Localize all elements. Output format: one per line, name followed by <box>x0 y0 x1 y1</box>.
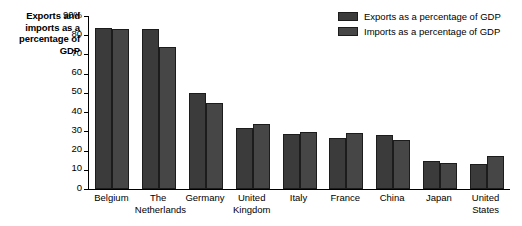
x-axis-label: The Netherlands <box>135 192 182 215</box>
bar-imports <box>393 140 410 189</box>
bar-imports <box>487 156 504 189</box>
bar-exports <box>236 128 253 190</box>
chart-legend: Exports as a percentage of GDPImports as… <box>338 10 522 40</box>
bar-exports <box>189 93 206 189</box>
y-tick-mark <box>84 35 88 36</box>
bar-exports <box>376 135 393 189</box>
bar-imports <box>112 29 129 189</box>
bar-group <box>283 16 317 189</box>
x-axis-label: Japan <box>415 192 462 204</box>
bar-exports <box>142 29 159 189</box>
x-axis-line <box>88 189 510 190</box>
y-tick-mark <box>84 170 88 171</box>
legend-swatch-exports <box>338 12 358 21</box>
bar-exports <box>470 164 487 189</box>
bar-exports <box>95 28 112 189</box>
x-axis-labels: BelgiumThe NetherlandsGermanyUnited King… <box>88 192 510 224</box>
y-tick-mark <box>84 112 88 113</box>
x-axis-label: Italy <box>275 192 322 204</box>
y-tick-label: 50 <box>71 86 82 96</box>
x-axis-label: China <box>369 192 416 204</box>
y-tick-label: 80 <box>71 29 82 39</box>
bar-imports <box>300 132 317 189</box>
legend-label: Exports as a percentage of GDP <box>364 11 501 22</box>
x-axis-label: United States <box>462 192 509 215</box>
bar-imports <box>159 47 176 189</box>
y-tick-mark <box>84 54 88 55</box>
y-tick-mark <box>84 74 88 75</box>
bar-imports <box>206 103 223 190</box>
bar-group <box>189 16 223 189</box>
bar-group <box>329 16 363 189</box>
legend-swatch-imports <box>338 27 358 36</box>
bar-exports <box>423 161 440 189</box>
x-axis-label: France <box>322 192 369 204</box>
bar-group <box>376 16 410 189</box>
bar-group <box>236 16 270 189</box>
y-tick-mark <box>84 151 88 152</box>
y-tick-label: 10 <box>71 163 82 173</box>
bar-group <box>470 16 504 189</box>
bar-group <box>423 16 457 189</box>
bar-group <box>95 16 129 189</box>
x-axis-label: United Kingdom <box>228 192 275 215</box>
bar-exports <box>283 134 300 189</box>
bar-imports <box>346 133 363 189</box>
legend-label: Imports as a percentage of GDP <box>364 26 500 37</box>
exports-imports-gdp-bar-chart: Exports and imports as a percentage of G… <box>0 0 522 226</box>
y-tick-mark <box>84 189 88 190</box>
x-axis-label: Belgium <box>88 192 135 204</box>
y-tick-mark <box>84 131 88 132</box>
bar-group <box>142 16 176 189</box>
bar-imports <box>253 124 270 189</box>
legend-item-exports: Exports as a percentage of GDP <box>338 10 522 23</box>
y-tick-label: 70 <box>71 48 82 58</box>
bars-layer <box>89 16 510 189</box>
legend-item-imports: Imports as a percentage of GDP <box>338 25 522 38</box>
y-tick-label: 0 <box>77 183 82 193</box>
plot-area: 0102030405060708090% <box>88 16 510 190</box>
y-tick-label: 40 <box>71 106 82 116</box>
y-tick-mark <box>84 16 88 17</box>
bar-imports <box>440 163 457 189</box>
y-tick-label: 20 <box>71 144 82 154</box>
y-tick-label: 60 <box>71 67 82 77</box>
bar-exports <box>329 138 346 189</box>
x-axis-label: Germany <box>182 192 229 204</box>
y-tick-label: 90% <box>63 10 82 20</box>
y-tick-mark <box>84 93 88 94</box>
y-tick-label: 30 <box>71 125 82 135</box>
